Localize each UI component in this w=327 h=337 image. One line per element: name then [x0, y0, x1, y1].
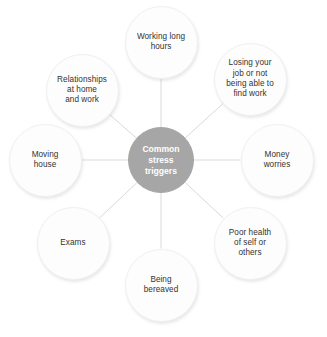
node-moving-house[interactable]: Movinghouse	[9, 124, 82, 197]
node-label-exams: Exams	[58, 238, 87, 248]
connector-losing-your-job	[185, 104, 223, 138]
node-label-money-worries: Moneyworries	[262, 150, 293, 171]
node-exams[interactable]: Exams	[37, 207, 110, 280]
node-label-relationships: Relationshipsat homeand work	[55, 75, 109, 106]
connector-poor-health	[185, 183, 223, 219]
connector-exams	[100, 183, 137, 218]
stress-triggers-diagram: Working longhoursLosing yourjob or notbe…	[0, 0, 327, 337]
node-poor-health[interactable]: Poor healthof self orothers	[214, 207, 287, 280]
node-relationships[interactable]: Relationshipsat homeand work	[46, 54, 119, 127]
node-label-poor-health: Poor healthof self orothers	[227, 228, 273, 259]
node-label-center: Commonstresstriggers	[142, 144, 179, 177]
node-losing-your-job[interactable]: Losing yourjob or notbeing able tofind w…	[214, 43, 287, 116]
node-label-being-bereaved: Beingbereaved	[142, 275, 181, 296]
node-money-worries[interactable]: Moneyworries	[241, 124, 314, 197]
node-working-long-hours[interactable]: Working longhours	[125, 6, 198, 79]
node-label-losing-your-job: Losing yourjob or notbeing able tofind w…	[224, 58, 276, 99]
node-center-common-stress-triggers[interactable]: Commonstresstriggers	[128, 127, 194, 193]
connector-relationships	[109, 114, 136, 138]
node-label-working-long-hours: Working longhours	[135, 32, 187, 53]
node-label-moving-house: Movinghouse	[30, 150, 61, 171]
node-being-bereaved[interactable]: Beingbereaved	[125, 249, 198, 322]
